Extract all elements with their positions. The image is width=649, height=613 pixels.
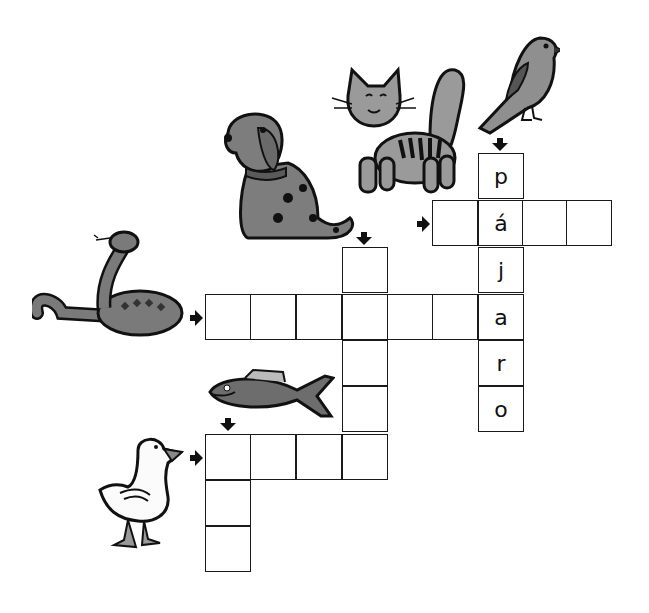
arrow-right-icon [417, 216, 430, 232]
arrow-right-icon [190, 450, 203, 466]
cell-fish-3[interactable] [205, 526, 251, 572]
cell-dog-5[interactable] [342, 434, 388, 480]
cell-dog-1[interactable] [342, 247, 388, 293]
arrow-down-icon [492, 138, 508, 151]
cell-duck-1[interactable] [205, 434, 251, 480]
cell-cat-1[interactable] [432, 200, 478, 246]
cell-snake-1[interactable] [205, 294, 251, 340]
arrow-right-icon [190, 310, 203, 326]
cell-duck-2[interactable] [250, 434, 296, 480]
cell-snake-6[interactable] [432, 294, 478, 340]
cell-bird-1[interactable]: p [478, 153, 524, 199]
cell-snake-3[interactable] [296, 294, 342, 340]
cell-snake-5[interactable] [387, 294, 433, 340]
bird-picture-icon [470, 28, 560, 138]
cell-dog-3[interactable] [342, 340, 388, 386]
cell-cat-4[interactable] [566, 200, 612, 246]
arrow-down-icon [220, 418, 236, 431]
cell-bird-5[interactable]: r [478, 340, 524, 386]
fish-picture-icon [205, 368, 335, 420]
cell-dog-4[interactable] [342, 386, 388, 432]
cell-bird-2[interactable]: á [478, 200, 524, 246]
arrow-down-icon [356, 232, 372, 245]
cell-cat-3[interactable] [522, 200, 568, 246]
cell-snake-2[interactable] [250, 294, 296, 340]
cell-duck-3[interactable] [296, 434, 342, 480]
snake-picture-icon [32, 228, 187, 338]
cell-bird-4[interactable]: a [478, 294, 524, 340]
duck-picture-icon [98, 435, 188, 550]
cell-snake-4[interactable] [342, 294, 388, 340]
cell-bird-6[interactable]: o [478, 386, 524, 432]
cell-fish-2[interactable] [205, 480, 251, 526]
dog-picture-icon [218, 108, 358, 243]
cell-bird-3[interactable]: j [478, 247, 524, 293]
